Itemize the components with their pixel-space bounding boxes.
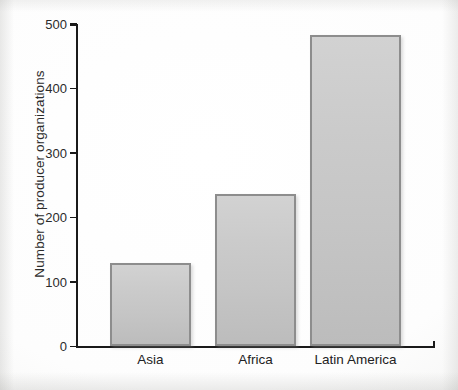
y-axis-tick-mark bbox=[70, 217, 77, 219]
y-axis-tick-mark bbox=[70, 23, 77, 25]
y-axis-tick-label: 500 bbox=[45, 17, 67, 32]
y-axis-tick-mark bbox=[70, 88, 77, 90]
y-axis-tick-label: 200 bbox=[45, 210, 67, 225]
y-axis-tick-mark bbox=[70, 281, 77, 283]
x-axis-line bbox=[76, 346, 435, 348]
y-axis-tick-mark bbox=[70, 346, 77, 348]
bar-africa[interactable]: Africa bbox=[215, 194, 296, 346]
y-axis-line bbox=[76, 24, 78, 348]
bar-chart-figure: Number of producer organizations 5004003… bbox=[0, 0, 458, 390]
plot-area: 5004003002001000 AsiaAfricaLatin America bbox=[76, 24, 435, 348]
x-axis-category-label: Africa bbox=[238, 352, 273, 367]
y-axis-title: Number of producer organizations bbox=[26, 0, 52, 348]
x-axis-category-label: Asia bbox=[137, 352, 163, 367]
y-axis-tick-label: 400 bbox=[45, 81, 67, 96]
x-axis-right-cap bbox=[433, 341, 435, 348]
y-axis-tick-label: 0 bbox=[60, 339, 67, 354]
y-axis-tick-label: 100 bbox=[45, 274, 67, 289]
bar-asia[interactable]: Asia bbox=[110, 263, 191, 346]
y-axis-tick-mark bbox=[70, 152, 77, 154]
y-axis-tick-label: 300 bbox=[45, 145, 67, 160]
x-axis-category-label: Latin America bbox=[315, 352, 397, 367]
bar-latin-america[interactable]: Latin America bbox=[310, 35, 401, 346]
